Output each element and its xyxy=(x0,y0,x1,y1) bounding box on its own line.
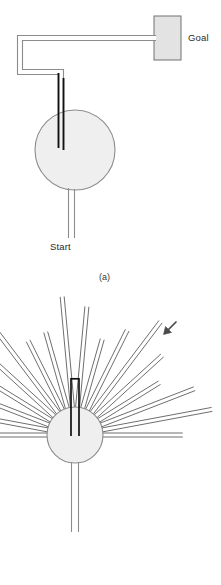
pointer-arrow-icon xyxy=(164,322,177,335)
figure-root: Goal Start (a) xyxy=(0,0,221,585)
goal-label: Goal xyxy=(188,32,209,43)
radial-arm-edge xyxy=(83,329,125,414)
caption-panel-a: (a) xyxy=(99,272,110,282)
goal-box xyxy=(154,16,181,60)
hub-circle-b xyxy=(47,407,103,463)
hub-circle-a xyxy=(35,110,115,190)
panel-a-svg xyxy=(0,0,221,290)
radial-arm-interior xyxy=(0,325,62,417)
panel-a-single-choice-maze: Goal Start (a) xyxy=(0,0,221,290)
panel-b-svg xyxy=(0,290,221,585)
start-stem-b xyxy=(72,462,79,532)
start-stem-a xyxy=(69,188,75,238)
radial-arm-edge xyxy=(0,324,63,416)
panel-b-radial-arm-maze: Start (b) xyxy=(0,290,221,585)
radial-arms-group xyxy=(0,296,212,437)
start-label-panel-a: Start xyxy=(50,241,71,252)
